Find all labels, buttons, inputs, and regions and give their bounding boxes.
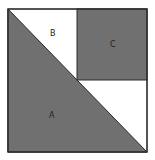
region-a-label: A [49, 111, 55, 120]
region-b-label: B [50, 29, 56, 38]
region-c-label: C [110, 40, 116, 49]
geometry-diagram: B C A [0, 0, 155, 160]
